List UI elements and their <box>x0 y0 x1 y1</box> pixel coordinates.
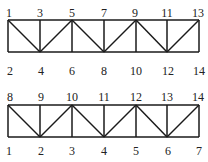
node-label: 11 <box>98 91 110 103</box>
node-label: 3 <box>69 145 75 157</box>
node-label: 2 <box>7 65 13 77</box>
truss-bottom <box>8 105 199 137</box>
node-label: 12 <box>130 91 142 103</box>
node-label: 10 <box>66 91 78 103</box>
node-label: 4 <box>38 65 44 77</box>
node-label: 12 <box>162 65 174 77</box>
node-label: 5 <box>133 145 139 157</box>
node-label: 11 <box>161 7 173 19</box>
node-label: 3 <box>37 7 43 19</box>
node-label: 2 <box>38 145 44 157</box>
node-label: 7 <box>196 145 202 157</box>
node-label: 9 <box>132 7 138 19</box>
node-label: 5 <box>69 7 75 19</box>
node-label: 13 <box>161 91 173 103</box>
node-label: 6 <box>165 145 171 157</box>
node-label: 9 <box>38 91 44 103</box>
truss-diagrams <box>0 0 208 162</box>
node-label: 13 <box>192 7 204 19</box>
node-label: 8 <box>7 91 13 103</box>
node-label: 8 <box>101 65 107 77</box>
node-label: 7 <box>101 7 107 19</box>
node-label: 6 <box>69 65 75 77</box>
node-label: 1 <box>6 145 12 157</box>
node-label: 14 <box>192 91 204 103</box>
node-label: 1 <box>6 7 12 19</box>
node-label: 4 <box>101 145 107 157</box>
truss-top <box>8 20 199 52</box>
node-label: 14 <box>193 65 205 77</box>
node-label: 10 <box>130 65 142 77</box>
